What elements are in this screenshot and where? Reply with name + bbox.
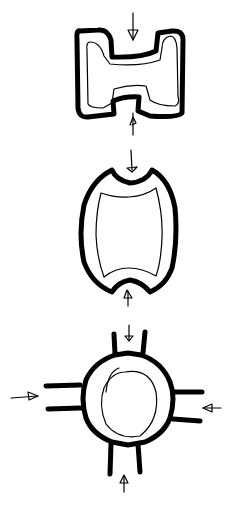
- arrow-up-icon: [130, 113, 136, 135]
- arrow-up-icon: [120, 475, 128, 492]
- arrow-right-icon: [11, 392, 38, 400]
- arrow-left-icon: [203, 404, 221, 412]
- sketch-canvas: [0, 0, 243, 513]
- circle-node: [11, 325, 221, 492]
- barrel-shape: [81, 150, 176, 306]
- arrow-up-icon: [124, 290, 132, 306]
- arrow-down-icon: [127, 150, 137, 172]
- h-shape: [77, 13, 183, 135]
- port-top-left: [114, 334, 115, 354]
- arrow-down-icon: [125, 325, 133, 341]
- arrow-down-icon: [128, 13, 138, 40]
